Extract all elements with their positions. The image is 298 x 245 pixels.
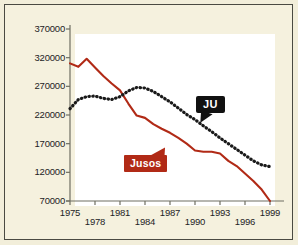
y-tick-label: 320000 xyxy=(34,52,65,63)
series-line-jusos xyxy=(70,59,270,201)
jusos-series-callout: Jusos xyxy=(124,155,167,172)
y-tick-label-wrap: 370000 xyxy=(10,23,65,35)
y-tick-label: 170000 xyxy=(34,138,65,149)
y-tick-label-wrap: 220000 xyxy=(10,109,65,121)
y-tick-label: 270000 xyxy=(34,80,65,91)
y-tick-label-wrap: 320000 xyxy=(10,52,65,64)
y-tick-label: 220000 xyxy=(34,109,65,120)
x-tick-label: 1993 xyxy=(207,207,233,218)
y-tick-label-wrap: 270000 xyxy=(10,80,65,92)
x-tick-label: 1975 xyxy=(57,207,83,218)
x-tick-label: 1999 xyxy=(257,207,283,218)
y-tick-label-wrap: 170000 xyxy=(10,138,65,150)
y-tick-label-wrap: 120000 xyxy=(10,166,65,178)
y-tick-label: 70000 xyxy=(40,195,65,206)
ju-series-callout: JU xyxy=(196,96,225,113)
x-tick-label: 1984 xyxy=(132,216,158,227)
chart-svg xyxy=(0,0,298,245)
y-tick-label-wrap: 70000 xyxy=(10,195,65,207)
chart-screenshot: 7000012000017000022000027000032000037000… xyxy=(0,0,298,245)
x-tick-label: 1987 xyxy=(157,207,183,218)
y-tick-label: 370000 xyxy=(34,23,65,34)
x-tick-label: 1990 xyxy=(182,216,208,227)
series-line-ju xyxy=(70,87,270,166)
x-tick-label: 1981 xyxy=(107,207,133,218)
x-tick-label: 1978 xyxy=(82,216,108,227)
y-tick-label: 120000 xyxy=(34,166,65,177)
x-tick-label: 1996 xyxy=(232,216,258,227)
